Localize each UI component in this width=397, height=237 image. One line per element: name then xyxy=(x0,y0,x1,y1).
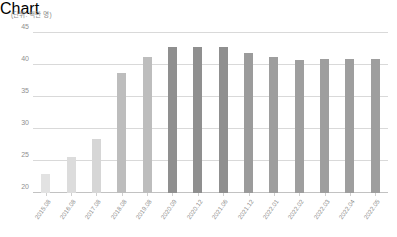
x-axis-tick-label: 2016.08 xyxy=(58,198,77,220)
x-axis-tick-label: 2018.08 xyxy=(109,198,128,220)
bar xyxy=(143,57,152,193)
x-axis-tickmark xyxy=(325,193,326,196)
y-axis-tick-label: 20 xyxy=(21,183,29,190)
y-axis-tick-label: 25 xyxy=(21,151,29,158)
x-axis-tickmark xyxy=(299,193,300,196)
bar-slot: 2019.08 xyxy=(134,33,159,193)
bar xyxy=(244,53,253,193)
unit-label: (단위: 백만 명) xyxy=(11,9,52,19)
bar-slot: 2015.08 xyxy=(33,33,58,193)
bar xyxy=(67,157,76,193)
bar-slot: 2020.12 xyxy=(185,33,210,193)
bar xyxy=(345,59,354,193)
x-axis-tick-label: 2022.03 xyxy=(312,198,331,220)
y-axis-tick-label: 40 xyxy=(21,55,29,62)
x-axis-tick-label: 2015.08 xyxy=(33,198,52,220)
bar-slot: 2021.12 xyxy=(236,33,261,193)
bar-slot: 2017.08 xyxy=(84,33,109,193)
bar-slot: 2022.04 xyxy=(337,33,362,193)
bar-slot: 2016.08 xyxy=(58,33,83,193)
bar xyxy=(41,174,50,193)
bar-series: 2015.082016.082017.082018.082019.082020.… xyxy=(33,33,388,193)
bar xyxy=(219,47,228,193)
bar xyxy=(371,59,380,193)
bar-slot: 2018.08 xyxy=(109,33,134,193)
x-axis-tick-label: 2021.12 xyxy=(236,198,255,220)
bar xyxy=(92,139,101,193)
x-axis-tickmark xyxy=(71,193,72,196)
bar-slot: 2022.05 xyxy=(363,33,388,193)
x-axis-tick-label: 2019.08 xyxy=(134,198,153,220)
x-axis-tickmark xyxy=(350,193,351,196)
bar xyxy=(269,57,278,193)
bar-slot: 2022.01 xyxy=(261,33,286,193)
x-axis-tickmark xyxy=(96,193,97,196)
x-axis-tickmark xyxy=(223,193,224,196)
bar-slot: 2021.06 xyxy=(211,33,236,193)
plot-area: 202530354045 2015.082016.082017.082018.0… xyxy=(33,33,388,193)
bar-slot: 2022.03 xyxy=(312,33,337,193)
y-axis-tick-label: 45 xyxy=(21,23,29,30)
x-axis-tick-label: 2020.12 xyxy=(185,198,204,220)
x-axis-tickmark xyxy=(147,193,148,196)
bar xyxy=(193,47,202,193)
bar xyxy=(117,73,126,193)
bar xyxy=(320,59,329,193)
y-axis-tick-label: 35 xyxy=(21,87,29,94)
x-axis-tick-label: 2017.08 xyxy=(84,198,103,220)
y-axis-tick-label: 30 xyxy=(21,119,29,126)
x-axis-tick-label: 2020.09 xyxy=(160,198,179,220)
bar-slot: 2022.02 xyxy=(287,33,312,193)
bar-slot: 2020.09 xyxy=(160,33,185,193)
x-axis-tick-label: 2021.06 xyxy=(210,198,229,220)
x-axis-tickmark xyxy=(46,193,47,196)
bar-chart: (단위: 백만 명) 202530354045 2015.082016.0820… xyxy=(0,0,397,237)
x-axis-tickmark xyxy=(198,193,199,196)
x-axis-tickmark xyxy=(172,193,173,196)
x-axis-tick-label: 2022.02 xyxy=(286,198,305,220)
x-axis-tickmark xyxy=(122,193,123,196)
bar xyxy=(295,60,304,193)
x-axis-tickmark xyxy=(375,193,376,196)
x-axis-tick-label: 2022.01 xyxy=(261,198,280,220)
x-axis-tickmark xyxy=(274,193,275,196)
x-axis-tick-label: 2022.05 xyxy=(363,198,382,220)
x-axis-tickmark xyxy=(249,193,250,196)
x-axis-tick-label: 2022.04 xyxy=(337,198,356,220)
bar xyxy=(168,47,177,193)
